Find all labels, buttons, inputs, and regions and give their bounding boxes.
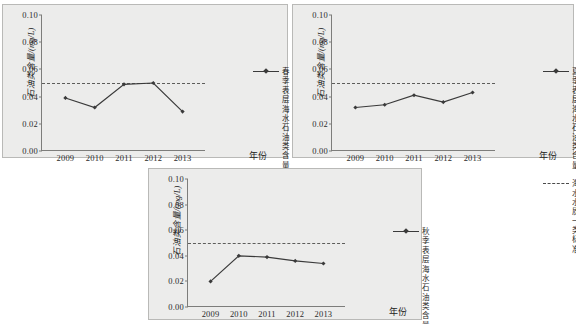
chart-panel-autumn: 石油类含量/(mg/L) 0.000.020.040.060.080.10200…: [148, 168, 422, 320]
legend-threshold-label: 海水水质一 类标准: [572, 179, 576, 254]
series-graphic: [188, 179, 346, 307]
plot-area-autumn: 0.000.020.040.060.080.102009201020112012…: [187, 179, 345, 307]
plot-area-summer: 0.000.020.040.060.080.102009201020112012…: [331, 15, 495, 151]
legend-item-series: 夏季表层海水 石油类含量: [543, 67, 576, 170]
x-tick-label: 2011: [405, 150, 423, 163]
x-tick-label: 2011: [115, 150, 133, 163]
data-point-marker: [265, 255, 269, 259]
x-tick-label: 2010: [230, 306, 248, 319]
legend-dashed-line-icon: [543, 179, 569, 188]
legend-item-series: 春季表层海水 石油类含量: [253, 67, 289, 170]
legend-solid-line-icon: [543, 67, 569, 76]
plot-wrapper-summer: 石油类含量/(mg/L) 0.000.020.040.060.080.10200…: [293, 5, 573, 157]
legend-series-label: 春季表层海水 石油类含量: [282, 67, 289, 170]
data-point-marker: [321, 261, 325, 265]
legend-series-label: 秋季表层海水 石油类含量: [422, 227, 429, 324]
legend-autumn: 秋季表层海水 石油类含量 海水水质一 类标准: [393, 227, 429, 324]
x-tick-label: 2009: [202, 306, 220, 319]
series-graphic: [42, 15, 206, 151]
x-tick-label: 2009: [347, 150, 365, 163]
x-tick-label: 2013: [315, 306, 333, 319]
x-tick-label: 2012: [144, 150, 162, 163]
legend-series-label: 夏季表层海水 石油类含量: [572, 67, 576, 170]
y-axis-label-autumn: 石油类含量/(mg/L): [170, 186, 182, 257]
x-tick-label: 2009: [57, 150, 75, 163]
x-tick-label: 2012: [434, 150, 452, 163]
plot-area-spring: 0.000.020.040.060.080.102009201020112012…: [41, 15, 205, 151]
data-point-marker: [441, 100, 445, 104]
x-tick-label: 2010: [376, 150, 394, 163]
plot-wrapper-spring: 石油类含量/(mg/L) 0.000.020.040.060.080.10200…: [3, 5, 287, 157]
data-point-marker: [383, 103, 387, 107]
legend-item-threshold: 海水水质一 类标准: [543, 179, 576, 254]
legend-summer: 夏季表层海水 石油类含量 海水水质一 类标准: [543, 67, 576, 263]
data-point-marker: [470, 90, 474, 94]
plot-wrapper-autumn: 石油类含量/(mg/L) 0.000.020.040.060.080.10200…: [149, 169, 421, 319]
series-line: [65, 83, 182, 112]
x-tick-label: 2011: [258, 306, 276, 319]
chart-panel-spring: 石油类含量/(mg/L) 0.000.020.040.060.080.10200…: [2, 4, 288, 158]
x-tick-label: 2013: [464, 150, 482, 163]
legend-solid-line-icon: [253, 67, 279, 76]
legend-item-series: 秋季表层海水 石油类含量: [393, 227, 429, 324]
x-tick-label: 2013: [174, 150, 192, 163]
chart-panel-summer: 石油类含量/(mg/L) 0.000.020.040.060.080.10200…: [292, 4, 574, 158]
data-point-marker: [293, 259, 297, 263]
data-point-marker: [353, 105, 357, 109]
x-tick-label: 2012: [286, 306, 304, 319]
series-line: [211, 256, 324, 282]
data-point-marker: [63, 96, 67, 100]
legend-solid-line-icon: [393, 227, 419, 236]
data-point-marker: [412, 93, 416, 97]
x-tick-label: 2010: [86, 150, 104, 163]
series-graphic: [332, 15, 496, 151]
